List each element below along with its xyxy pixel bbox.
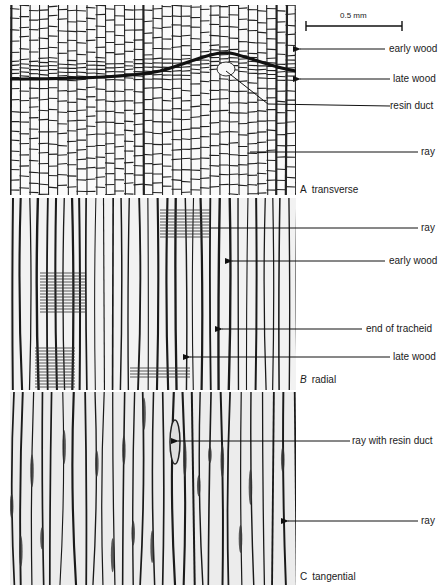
uniseriate-ray	[122, 436, 126, 465]
uniseriate-ray	[19, 536, 23, 567]
uniseriate-ray	[183, 441, 187, 476]
label-ray-b: ray	[421, 222, 435, 234]
label-ray-c: ray	[421, 515, 435, 527]
uniseriate-ray	[40, 527, 44, 549]
uniseriate-ray	[111, 538, 115, 572]
panel-name-b: radial	[312, 374, 336, 385]
tangential-walls	[10, 392, 296, 585]
ray-band	[35, 348, 75, 387]
cell-walls	[10, 5, 296, 195]
uniseriate-ray	[95, 451, 99, 477]
panel-name-a: transverse	[312, 184, 359, 195]
uniseriate-ray	[239, 525, 243, 553]
uniseriate-ray	[10, 494, 13, 519]
fusiform-ray	[170, 420, 180, 464]
panel-letter-b: B	[300, 374, 307, 385]
resin-duct-cell	[217, 62, 235, 76]
label-ray-with-resin-duct: ray with resin duct	[352, 435, 433, 447]
label-early-wood-a: early wood	[389, 43, 437, 55]
uniseriate-ray	[221, 445, 225, 478]
panel-title-tangential: Ctangential	[300, 571, 356, 582]
label-late-wood-b: late wood	[393, 351, 436, 363]
uniseriate-ray	[249, 470, 253, 505]
label-ray-a: ray	[421, 146, 435, 158]
label-late-wood-a: late wood	[393, 73, 436, 85]
micrograph-tangential	[10, 392, 296, 585]
label-resin-duct: resin duct	[390, 100, 433, 112]
transverse-cell-grid	[10, 5, 296, 195]
label-early-wood-b: early wood	[389, 255, 437, 267]
panel-letter-c: C	[300, 571, 307, 582]
panel-title-transverse: Atransverse	[300, 184, 358, 195]
uniseriate-ray	[208, 447, 212, 464]
uniseriate-ray	[281, 447, 285, 472]
panel-name-c: tangential	[312, 571, 355, 582]
uniseriate-ray	[62, 430, 66, 464]
micrograph-transverse	[10, 5, 296, 195]
scale-bar	[306, 21, 402, 31]
radial-tracheids	[10, 198, 296, 390]
panel-title-radial: Bradial	[300, 374, 336, 385]
uniseriate-ray	[150, 531, 154, 563]
scale-bar-label: 0.5 mm	[340, 11, 367, 20]
uniseriate-ray	[197, 475, 201, 496]
uniseriate-ray	[131, 521, 135, 546]
uniseriate-ray	[142, 398, 146, 430]
micrograph-radial	[10, 198, 296, 390]
tangential-tracheids	[10, 392, 296, 585]
panel-letter-a: A	[300, 184, 307, 195]
label-end-of-tracheid: end of tracheid	[366, 323, 432, 335]
uniseriate-ray	[30, 455, 34, 488]
